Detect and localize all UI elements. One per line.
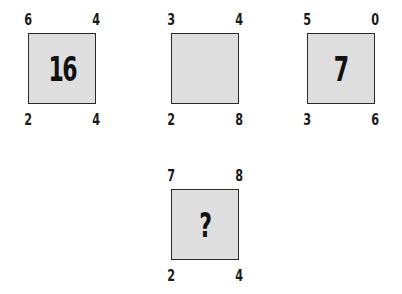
bottom-left-number: 2 (167, 113, 175, 128)
top-left-number: 3 (167, 13, 175, 28)
center-box: 7 (307, 33, 375, 104)
center-number: 7 (334, 52, 348, 86)
bottom-left-number: 2 (167, 269, 175, 284)
center-box (171, 33, 239, 104)
bottom-right-number: 4 (235, 269, 243, 284)
top-right-number: 4 (92, 13, 100, 28)
bottom-left-number: 3 (303, 113, 311, 128)
bottom-right-number: 4 (92, 113, 100, 128)
top-right-number: 8 (235, 169, 243, 184)
puzzle-cell-3: 5 0 7 3 6 (299, 13, 389, 133)
top-left-number: 5 (303, 13, 311, 28)
puzzle-cell-1: 6 4 16 2 4 (20, 13, 110, 133)
puzzle-cell-4: 7 8 ? 2 4 (163, 169, 253, 289)
question-mark: ? (199, 208, 210, 242)
center-box: ? (171, 189, 239, 260)
top-left-number: 6 (24, 13, 32, 28)
puzzle-cell-2: 3 4 2 8 (163, 13, 253, 133)
center-number: 16 (48, 52, 76, 86)
bottom-left-number: 2 (24, 113, 32, 128)
center-box: 16 (28, 33, 96, 104)
bottom-right-number: 8 (235, 113, 243, 128)
number-square-puzzle: 6 4 16 2 4 3 4 2 8 5 0 7 3 6 7 8 ? 2 4 (0, 0, 402, 294)
top-left-number: 7 (167, 169, 175, 184)
top-right-number: 0 (371, 13, 379, 28)
bottom-right-number: 6 (371, 113, 379, 128)
top-right-number: 4 (235, 13, 243, 28)
